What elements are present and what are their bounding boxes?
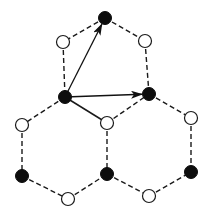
bond-dashed (22, 176, 68, 199)
lattice-vectors-layer (65, 24, 142, 97)
bond-solid (65, 97, 107, 123)
bond-dashed (63, 42, 65, 97)
bond-dashed (107, 94, 149, 123)
lattice-vector-a1 (65, 24, 102, 97)
open-atom-B_mid (101, 117, 114, 130)
bond-dashed (149, 172, 191, 196)
lattice-vector-a2 (65, 94, 142, 97)
bond-dashed (149, 94, 191, 118)
bond-dashed (145, 41, 149, 94)
open-atom-B_bl (62, 193, 75, 206)
open-atom-B_right (185, 112, 198, 125)
filled-atom-A_right (143, 88, 156, 101)
open-atom-B_ur (139, 35, 152, 48)
filled-atom-A_left (16, 170, 29, 183)
filled-atom-A_top (99, 12, 112, 25)
filled-atom-A_rbot (185, 166, 198, 179)
open-atom-B_br (143, 190, 156, 203)
open-atom-B_ul (57, 36, 70, 49)
bond-dashed (22, 97, 65, 125)
open-atom-B_left (16, 119, 29, 132)
atoms-layer (16, 12, 198, 206)
bond-dashed (107, 174, 149, 196)
filled-atom-A_mid (101, 168, 114, 181)
filled-atom-A_center (59, 91, 72, 104)
honeycomb-lattice-diagram (0, 0, 211, 218)
